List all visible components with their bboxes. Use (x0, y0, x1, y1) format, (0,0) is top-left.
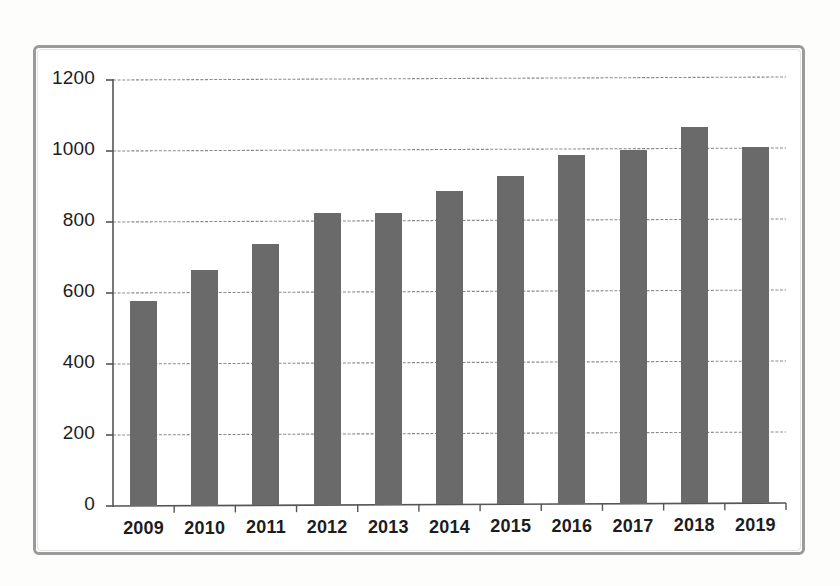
x-tick-label-2018: 2018 (663, 515, 725, 536)
y-tick-label-0: 0 (33, 493, 95, 515)
bar-2017 (620, 150, 647, 504)
bar-2016 (558, 155, 585, 504)
x-tick-label-2016: 2016 (541, 516, 603, 537)
y-tick-label-600: 600 (33, 280, 95, 302)
x-tick-label-2010: 2010 (174, 518, 236, 539)
bar-2010 (191, 270, 218, 506)
x-tick-label-2017: 2017 (602, 516, 664, 537)
x-tick-label-2012: 2012 (296, 517, 358, 538)
scanned-page: 020040060080010001200 200920102011201220… (0, 0, 840, 586)
y-tick-label-1000: 1000 (33, 138, 95, 160)
y-tick-label-800: 800 (33, 209, 95, 231)
bar-2013 (375, 213, 402, 504)
x-tick-label-2009: 2009 (113, 518, 175, 539)
x-tick-label-2015: 2015 (480, 516, 542, 537)
x-tick-label-2014: 2014 (419, 517, 481, 538)
x-tick-label-2019: 2019 (724, 515, 786, 536)
bar-2019 (742, 147, 769, 503)
bar-2011 (252, 244, 279, 505)
bar-2014 (436, 191, 463, 504)
x-tick-label-2013: 2013 (357, 517, 419, 538)
gridline-1200 (113, 77, 786, 80)
bar-2012 (314, 213, 341, 505)
y-tick-label-1200: 1200 (33, 67, 95, 89)
bar-2015 (497, 176, 524, 504)
chart-axes-layer (0, 0, 840, 586)
bar-2009 (130, 301, 157, 506)
y-tick-label-200: 200 (33, 422, 95, 444)
bar-2018 (681, 127, 708, 504)
bar-chart: 020040060080010001200 200920102011201220… (0, 0, 840, 586)
y-tick-label-400: 400 (33, 351, 95, 373)
x-tick-label-2011: 2011 (235, 517, 297, 538)
